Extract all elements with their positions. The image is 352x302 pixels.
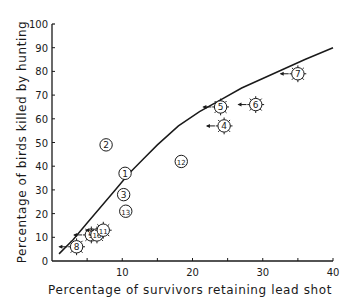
ticks: 010203040506070809010010203040 xyxy=(29,19,339,278)
chart-canvas: 010203040506070809010010203040 123456789… xyxy=(0,0,352,302)
y-tick-label: 10 xyxy=(35,232,48,243)
svg-text:5: 5 xyxy=(218,102,224,112)
y-tick-label: 100 xyxy=(29,19,48,30)
y-tick-label: 70 xyxy=(35,90,48,101)
data-point-7: 7 xyxy=(280,65,307,82)
x-tick-label: 20 xyxy=(186,267,199,278)
x-tick-label: 30 xyxy=(256,267,269,278)
data-point-12: 12 xyxy=(175,155,187,167)
svg-text:2: 2 xyxy=(103,140,109,150)
x-tick-label: 40 xyxy=(327,267,340,278)
y-axis-label: Percentage of birds killed by hunting xyxy=(15,21,29,264)
data-point-4: 4 xyxy=(206,118,233,135)
y-tick-label: 90 xyxy=(35,43,48,54)
y-tick-label: 50 xyxy=(35,138,48,149)
data-point-2: 2 xyxy=(100,139,112,151)
data-point-3: 3 xyxy=(117,188,129,200)
y-tick-label: 80 xyxy=(35,66,48,77)
svg-text:6: 6 xyxy=(253,100,259,110)
y-tick-label: 20 xyxy=(35,209,48,220)
data-point-6: 6 xyxy=(238,96,265,113)
svg-text:12: 12 xyxy=(177,159,186,167)
svg-text:7: 7 xyxy=(295,69,301,79)
y-tick-label: 30 xyxy=(35,185,48,196)
svg-text:11: 11 xyxy=(99,228,108,236)
svg-text:3: 3 xyxy=(121,190,127,200)
data-point-5: 5 xyxy=(202,99,229,116)
svg-text:1: 1 xyxy=(122,169,128,179)
scatter-chart: 010203040506070809010010203040 123456789… xyxy=(0,0,352,302)
svg-text:4: 4 xyxy=(221,121,227,131)
y-tick-label: 60 xyxy=(35,114,48,125)
y-tick-label: 40 xyxy=(35,161,48,172)
data-points: 12345678910111213 xyxy=(58,65,306,255)
svg-text:8: 8 xyxy=(74,242,80,252)
data-point-13: 13 xyxy=(120,205,132,217)
x-axis-label: Percentage of survivors retaining lead s… xyxy=(48,283,332,297)
axes xyxy=(52,24,333,261)
x-tick-label: 10 xyxy=(116,267,129,278)
y-tick-label: 0 xyxy=(42,256,48,267)
data-point-1: 1 xyxy=(119,167,131,179)
svg-text:13: 13 xyxy=(121,209,130,217)
fitted-curve xyxy=(59,48,333,254)
